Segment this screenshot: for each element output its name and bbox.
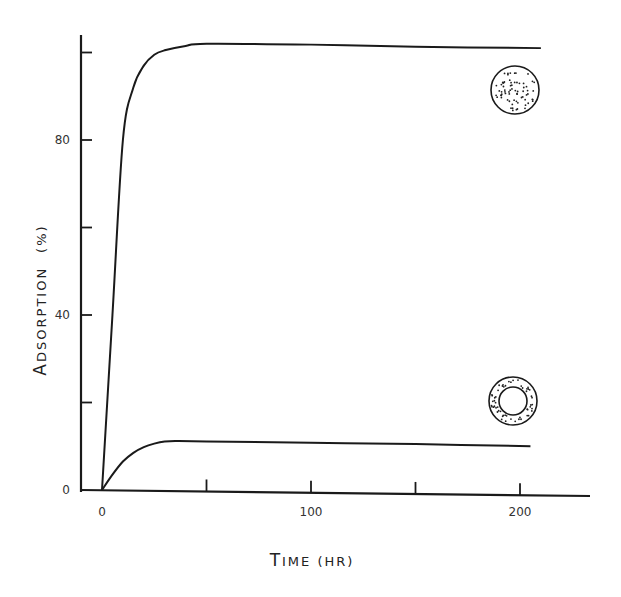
y-tick-label: 0 — [62, 483, 70, 497]
y-tick-label: 80 — [55, 133, 70, 147]
x-tick-label: 0 — [98, 505, 106, 519]
solid-particle-curve — [102, 44, 541, 490]
x-tick-label: 200 — [509, 505, 532, 519]
series-lines — [102, 44, 541, 490]
x-tick-label: 100 — [300, 505, 323, 519]
x-axis-title: TIME (HR) — [269, 550, 355, 570]
hollow-particle-curve — [102, 441, 530, 490]
dotted-ring-icon — [489, 377, 537, 425]
x-axis-line — [81, 490, 590, 496]
particle-icons — [489, 66, 539, 425]
adsorption-chart: 040800100200 TIME (HR) ADSORPTION(%) — [0, 0, 621, 597]
y-tick-label: 40 — [55, 308, 70, 322]
solid-dotted-circle-icon — [491, 66, 539, 114]
y-axis-title: ADSORPTION(%) — [30, 224, 50, 375]
